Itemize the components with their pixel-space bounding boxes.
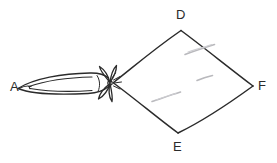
diagram-canvas: A D E F (0, 0, 277, 163)
vertex-label-a: A (10, 80, 19, 93)
arrow-tip-bevel-2 (29, 87, 30, 89)
arrow-shaft-line-bottom (30, 89, 92, 92)
arrow-fletching (99, 66, 122, 102)
arrow-shape (18, 73, 109, 94)
interior-smudge-group (152, 45, 215, 102)
vertex-label-e: E (173, 140, 182, 153)
arrow-shaft-line-top (29, 77, 92, 87)
fletching-petal-lower-right (109, 84, 112, 102)
quad-edge-ec (114, 83, 179, 133)
vertex-label-d: D (176, 8, 185, 21)
diagram-svg (0, 0, 277, 163)
vertex-label-f: F (258, 79, 266, 92)
quadrilateral-shape (114, 31, 254, 134)
smudge-lower-2 (156, 94, 176, 101)
quad-edge-cd (114, 31, 182, 83)
arrow-outline-bottom (18, 87, 109, 95)
quad-edge-fe (178, 86, 253, 133)
arrow-nock-joint (97, 76, 100, 92)
smudge-middle (197, 76, 213, 81)
quad-edge-df (181, 31, 253, 87)
